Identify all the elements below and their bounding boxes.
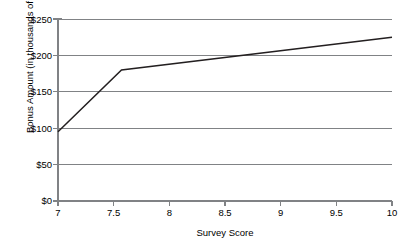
x-axis-title: Survey Score: [58, 227, 392, 238]
line-chart: Bonus Amount (in thousands of $) $250 $2…: [0, 0, 406, 246]
x-tick-label: 10: [377, 208, 406, 218]
x-tick-label: 7: [43, 208, 73, 218]
gridlines: [58, 19, 392, 165]
x-tick-label: 8: [154, 208, 184, 218]
x-tick-label: 9.5: [321, 208, 351, 218]
data-series-line: [58, 37, 392, 132]
x-tick-label: 9: [266, 208, 296, 218]
x-tick-label: 7.5: [99, 208, 129, 218]
x-tick-label: 8.5: [210, 208, 240, 218]
